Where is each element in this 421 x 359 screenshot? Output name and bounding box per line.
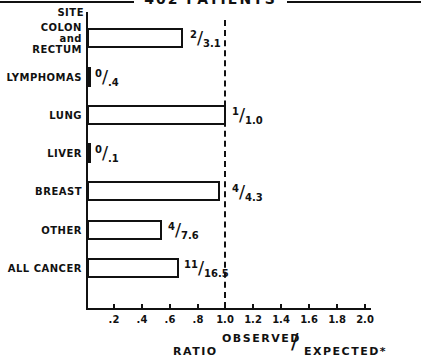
x-axis	[86, 308, 371, 310]
x-tick	[364, 304, 366, 308]
annotation-liver: 0/.1	[95, 142, 119, 164]
annotation-all-cancer: 11/16.5	[184, 257, 229, 279]
bar-breast	[87, 181, 220, 201]
x-tick	[141, 304, 143, 308]
chart-title-text: 402 PATIENTS	[134, 0, 287, 7]
chart-title: 402 PATIENTS	[0, 0, 421, 7]
bar-colon	[87, 28, 183, 48]
bar-lung	[87, 105, 226, 125]
annotation-colon: 2/3.1	[190, 27, 221, 49]
x-tick	[224, 304, 226, 308]
bar-liver	[87, 143, 91, 163]
category-label-liver: LIVER	[0, 148, 82, 159]
colon-line1: COLON	[10, 22, 82, 33]
x-tick-label: .2	[99, 314, 129, 325]
x-tick-label: .6	[155, 314, 185, 325]
category-label-other: OTHER	[0, 225, 82, 236]
x-axis-label-slash: /	[291, 330, 298, 354]
x-tick	[308, 304, 310, 308]
bar-lymphomas	[87, 67, 91, 87]
category-label-lymphomas: LYMPHOMAS	[0, 72, 82, 83]
category-label-all-cancer: ALL CANCER	[0, 263, 82, 274]
annotation-lung: 1/1.0	[232, 104, 263, 126]
x-tick	[197, 304, 199, 308]
x-axis-label-prefix: RATIO	[173, 345, 218, 358]
annotation-other: 4/7.6	[168, 219, 199, 241]
category-label-colon: COLON and RECTUM	[10, 22, 82, 55]
annotation-breast: 4/4.3	[232, 181, 263, 203]
x-tick	[113, 304, 115, 308]
y-axis-title: SITE	[40, 7, 84, 18]
category-label-lung: LUNG	[0, 110, 82, 121]
x-axis-label-numerator: OBSERVED	[222, 332, 301, 345]
annotation-lymphomas: 0/.4	[95, 66, 119, 88]
x-tick	[169, 304, 171, 308]
x-tick-label: .4	[127, 314, 157, 325]
x-tick-label: 2.0	[350, 314, 380, 325]
colon-line3: RECTUM	[10, 44, 82, 55]
x-tick-label: .8	[183, 314, 213, 325]
category-label-breast: BREAST	[0, 186, 82, 197]
x-tick-label: 1.2	[238, 314, 268, 325]
x-tick-label: 1.4	[266, 314, 296, 325]
x-tick-label: 1.8	[322, 314, 352, 325]
bar-other	[87, 220, 162, 240]
x-tick	[280, 304, 282, 308]
bar-all-cancer	[87, 258, 179, 278]
x-axis-label-denominator: EXPECTED*	[304, 345, 387, 358]
x-tick-label: 1.6	[294, 314, 324, 325]
x-tick-label: 1.0	[210, 314, 240, 325]
x-tick	[252, 304, 254, 308]
x-tick	[336, 304, 338, 308]
colon-line2: and	[10, 33, 82, 44]
